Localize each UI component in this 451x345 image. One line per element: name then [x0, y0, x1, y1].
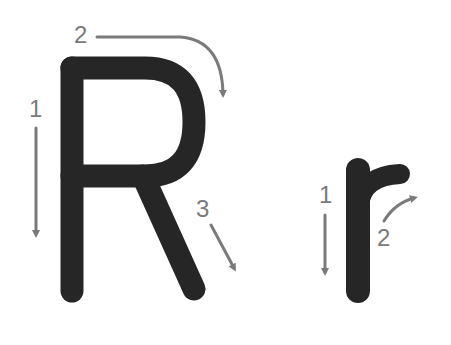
uppercase-r-glyph — [72, 68, 194, 291]
r-upper-bowl — [72, 68, 194, 176]
r-upper-stroke1-number: 1 — [29, 97, 42, 121]
r-upper-leg — [143, 176, 194, 289]
r-lower-stroke2-arrow — [384, 198, 414, 221]
r-upper-stroke3-arrow — [211, 225, 234, 268]
r-lower-stroke2-number: 2 — [377, 226, 390, 250]
r-upper-stroke2-number: 2 — [74, 23, 87, 47]
r-lower-stroke1-number: 1 — [319, 183, 332, 207]
r-upper-stroke3-number: 3 — [196, 197, 209, 221]
r-lower-arm — [359, 174, 400, 205]
letter-stroke-diagram — [0, 0, 451, 345]
